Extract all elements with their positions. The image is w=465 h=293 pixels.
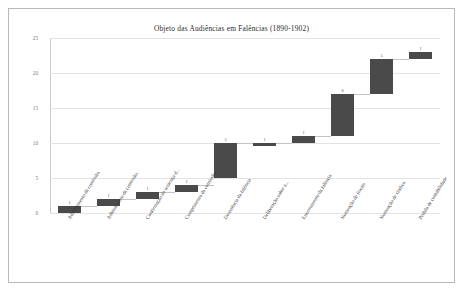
y-axis-tick-label: 15 <box>14 105 38 111</box>
bar-value-label: 1 <box>68 200 70 205</box>
bar[interactable] <box>175 185 198 192</box>
bar-value-label: 1 <box>302 130 304 135</box>
bar[interactable] <box>292 136 315 143</box>
y-axis-tick-label: 0 <box>14 210 38 216</box>
bar-value-label: 5 <box>380 53 382 58</box>
y-axis-line <box>50 38 51 213</box>
bar-value-label: 6 <box>341 88 343 93</box>
waterfall-connector <box>276 143 292 144</box>
bar[interactable] <box>253 143 276 146</box>
bar-value-label: 1 <box>263 137 265 142</box>
bar[interactable] <box>409 52 432 59</box>
waterfall-connector <box>237 143 253 144</box>
bar-value-label: 1 <box>185 179 187 184</box>
y-axis-tick-label: 5 <box>14 175 38 181</box>
gridline <box>50 38 440 39</box>
y-axis-tick-label: 25 <box>14 35 38 41</box>
bar-value-label: 1 <box>419 46 421 51</box>
bar-value-label: 1 <box>146 186 148 191</box>
waterfall-connector <box>81 206 97 207</box>
waterfall-connector <box>393 59 409 60</box>
gridline <box>50 108 440 109</box>
bar[interactable] <box>370 59 393 94</box>
bar-value-label: 5 <box>224 137 226 142</box>
chart-title: Objeto das Audiências em Falências (1890… <box>9 24 454 33</box>
bar-value-label: 1 <box>107 193 109 198</box>
bar[interactable] <box>331 94 354 136</box>
chart-frame: Objeto das Audiências em Falências (1890… <box>8 8 455 283</box>
y-axis-tick-label: 10 <box>14 140 38 146</box>
y-axis-tick-label: 20 <box>14 70 38 76</box>
waterfall-connector <box>354 94 370 95</box>
waterfall-connector <box>315 136 331 137</box>
